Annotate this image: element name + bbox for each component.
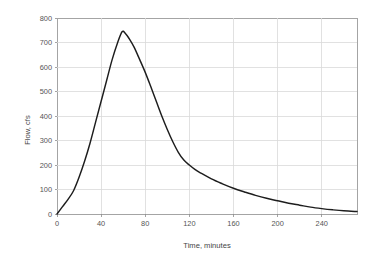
x-tick-label: 200 (271, 219, 283, 228)
y-tick-label: 800 (40, 14, 52, 23)
hydrograph-figure: 0100200300400500600700800 04080120160200… (0, 0, 375, 263)
y-tick-label: 400 (40, 112, 52, 121)
y-tick-label: 600 (40, 63, 52, 72)
x-tick-label: 240 (316, 219, 328, 228)
y-tick-label: 500 (40, 87, 52, 96)
x-axis-title: Time, minutes (183, 241, 231, 250)
y-tick-label: 0 (48, 210, 52, 219)
y-tick-label: 700 (40, 38, 52, 47)
y-tick-label: 300 (40, 136, 52, 145)
y-axis-title: Flow, cfs (23, 115, 32, 145)
x-tick-label: 160 (227, 219, 239, 228)
y-tick-label: 100 (40, 185, 52, 194)
x-tick-label: 120 (183, 219, 195, 228)
flow-vs-time-line-chart: 0100200300400500600700800 04080120160200… (0, 0, 375, 263)
y-tick-label: 200 (40, 161, 52, 170)
x-tick-label: 80 (141, 219, 149, 228)
x-tick-label: 0 (55, 219, 59, 228)
x-tick-label: 40 (97, 219, 105, 228)
y-axis-tick-labels: 0100200300400500600700800 (40, 14, 52, 219)
